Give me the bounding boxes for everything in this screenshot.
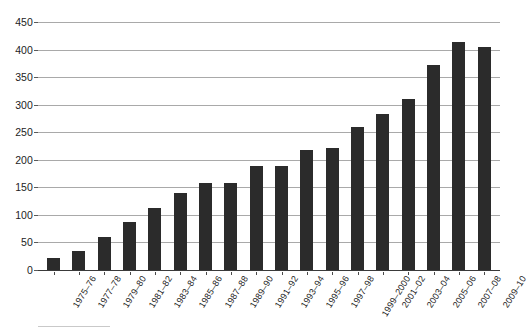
bar[interactable] <box>275 166 288 270</box>
bar[interactable] <box>326 148 339 270</box>
bar-slot <box>117 22 142 270</box>
bar[interactable] <box>427 65 440 270</box>
x-axis-tick-mark <box>282 272 283 275</box>
y-axis-tick-label: 450 <box>15 16 33 28</box>
bar-slot <box>294 22 319 270</box>
x-label-slot: 1989–90 <box>218 272 243 332</box>
bar-slot <box>345 22 370 270</box>
x-label-slot: 1993–94 <box>269 272 294 332</box>
x-label-slot: 1985–86 <box>168 272 193 332</box>
bar-slot <box>218 22 243 270</box>
x-axis-tick-mark <box>180 272 181 275</box>
bar[interactable] <box>478 47 491 270</box>
x-label-slot: 1977–78 <box>66 272 91 332</box>
bar-slot <box>472 22 497 270</box>
x-axis-tick-mark <box>484 272 485 275</box>
y-axis-tick-label: 300 <box>15 99 33 111</box>
bar[interactable] <box>174 193 187 270</box>
x-label-slot: 1979–80 <box>92 272 117 332</box>
y-axis-tick-label: 50 <box>21 236 33 248</box>
x-label-slot: 1991–92 <box>244 272 269 332</box>
x-axis-labels: 1975–761977–781979–801981–821983–841985–… <box>38 272 500 332</box>
bar[interactable] <box>250 166 263 270</box>
bar-slot <box>320 22 345 270</box>
x-axis-tick-mark <box>130 272 131 275</box>
bar-slot <box>244 22 269 270</box>
x-axis-tick-mark <box>332 272 333 275</box>
y-axis-tick-mark <box>34 270 38 271</box>
bar-slot <box>421 22 446 270</box>
bar[interactable] <box>148 208 161 270</box>
bar-slot <box>396 22 421 270</box>
x-axis-tick-mark <box>256 272 257 275</box>
y-axis-tick-label: 400 <box>15 44 33 56</box>
x-label-slot: 2001–02 <box>370 272 395 332</box>
x-label-slot: 1999–2000 <box>345 272 370 332</box>
x-label-slot: 2005–06 <box>421 272 446 332</box>
y-axis-tick-label: 0 <box>27 264 33 276</box>
x-axis-tick-mark <box>383 272 384 275</box>
plot-area: 050100150200250300350400450 <box>38 22 500 270</box>
x-label-slot: 2003–04 <box>396 272 421 332</box>
bar[interactable] <box>199 183 212 270</box>
bar[interactable] <box>300 150 313 270</box>
x-axis-tick-mark <box>104 272 105 275</box>
bar[interactable] <box>351 127 364 270</box>
x-axis-tick-mark <box>408 272 409 275</box>
x-axis-tick-mark <box>54 272 55 275</box>
footer-rule <box>38 326 110 327</box>
bar-slot <box>370 22 395 270</box>
bar[interactable] <box>376 114 389 271</box>
bar[interactable] <box>224 183 237 270</box>
y-axis-tick-label: 100 <box>15 209 33 221</box>
x-label-slot: 1981–82 <box>117 272 142 332</box>
bar-slot <box>168 22 193 270</box>
x-label-slot: 1997–98 <box>320 272 345 332</box>
x-axis-tick-mark <box>434 272 435 275</box>
bar-slot <box>193 22 218 270</box>
x-axis-tick-mark <box>206 272 207 275</box>
bar-slot <box>92 22 117 270</box>
x-label-slot: 1983–84 <box>142 272 167 332</box>
x-label-slot: 1987–88 <box>193 272 218 332</box>
x-axis-baseline: 0 <box>38 270 500 271</box>
y-axis-tick-label: 250 <box>15 126 33 138</box>
bar[interactable] <box>47 258 60 270</box>
y-axis-tick-label: 350 <box>15 71 33 83</box>
x-label-slot: 1995–96 <box>294 272 319 332</box>
x-axis-tick-mark <box>155 272 156 275</box>
bar[interactable] <box>123 222 136 270</box>
y-axis-tick-label: 200 <box>15 154 33 166</box>
bar-series <box>38 22 500 270</box>
bar-slot <box>41 22 66 270</box>
bar[interactable] <box>402 99 415 270</box>
bar-slot <box>269 22 294 270</box>
bar[interactable] <box>72 251 85 270</box>
x-axis-tick-mark <box>307 272 308 275</box>
x-axis-tick-mark <box>231 272 232 275</box>
bar-slot <box>446 22 471 270</box>
bar[interactable] <box>98 237 111 270</box>
bar-slot <box>66 22 91 270</box>
x-axis-tick-label: 2009–10 <box>501 274 528 310</box>
x-axis-tick-mark <box>459 272 460 275</box>
bar[interactable] <box>452 42 465 270</box>
x-axis-tick-mark <box>79 272 80 275</box>
y-axis-tick-label: 150 <box>15 181 33 193</box>
x-label-slot: 2009–10 <box>472 272 497 332</box>
bar-slot <box>142 22 167 270</box>
x-axis-tick-mark <box>358 272 359 275</box>
x-label-slot: 2007–08 <box>446 272 471 332</box>
x-label-slot: 1975–76 <box>41 272 66 332</box>
